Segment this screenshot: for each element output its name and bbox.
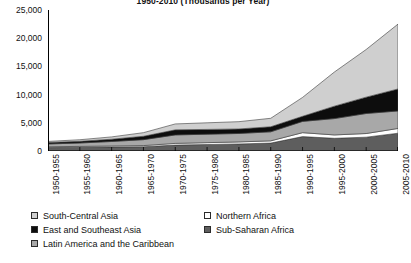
legend-swatch-icon — [31, 212, 38, 219]
legend-item-label: Northern Africa — [216, 211, 276, 221]
legend-item[interactable]: Sub-Saharan Africa — [204, 223, 294, 236]
legend-item-label: South-Central Asia — [43, 211, 118, 221]
legend-item[interactable]: Latin America and the Caribbean — [31, 237, 174, 250]
legend-swatch-icon — [204, 212, 211, 219]
x-tick-label: 1960-1965 — [115, 154, 124, 195]
y-tick-label: 25,000 — [16, 6, 42, 15]
legend-item[interactable]: East and Southeast Asia — [31, 223, 141, 236]
x-tick-label: 1980-1985 — [242, 154, 251, 195]
plot-svg — [48, 10, 398, 151]
legend-swatch-icon — [204, 226, 211, 233]
y-tick-label: 0 — [37, 147, 42, 156]
y-tick-label: 10,000 — [16, 90, 42, 99]
y-tick-label: 15,000 — [16, 62, 42, 71]
x-tick-label: 1965-1970 — [147, 154, 156, 195]
x-tick-label: 1990-1995 — [306, 154, 315, 195]
x-tick-label: 1985-1990 — [274, 154, 283, 195]
y-tick-label: 5,000 — [21, 118, 42, 127]
chart-title: 1950-2010 (Thousands per Year) — [0, 0, 406, 6]
x-tick-label: 1955-1960 — [83, 154, 92, 195]
legend-item-label: Sub-Saharan Africa — [216, 225, 294, 235]
chart-legend: South-Central AsiaEast and Southeast Asi… — [0, 209, 406, 263]
legend-item-label: East and Southeast Asia — [43, 225, 141, 235]
legend-swatch-icon — [31, 240, 38, 247]
legend-item[interactable]: Northern Africa — [204, 209, 276, 222]
x-tick-label: 1970-1975 — [179, 154, 188, 195]
x-tick-label: 2000-2005 — [370, 154, 379, 195]
x-tick-label: 2005-2010 — [402, 154, 411, 195]
legend-item-label: Latin America and the Caribbean — [43, 239, 174, 249]
y-tick-label: 20,000 — [16, 34, 42, 43]
legend-item[interactable]: South-Central Asia — [31, 209, 118, 222]
legend-swatch-icon — [31, 226, 38, 233]
plot-area — [48, 10, 398, 151]
x-tick-label: 1995-2000 — [338, 154, 347, 195]
x-tick-label: 1975-1980 — [211, 154, 220, 195]
y-axis: 05,00010,00015,00020,00025,000 — [0, 10, 46, 151]
x-tick-label: 1950-1955 — [52, 154, 61, 195]
x-axis: 1950-19551955-19601960-19651965-19701970… — [48, 151, 398, 209]
